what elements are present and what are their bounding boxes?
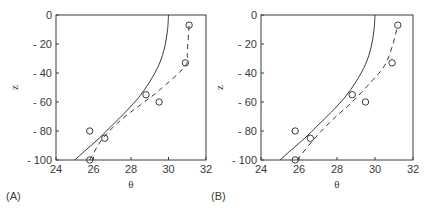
data-point-circle — [307, 135, 313, 141]
x-axis-label: θ — [128, 178, 133, 190]
solid-curve — [280, 15, 375, 160]
data-point-circle — [292, 128, 298, 134]
x-tick-label: 28 — [331, 163, 343, 175]
figure: 24262830320- 20- 40- 60- 80- 100θz(A) 24… — [0, 0, 433, 210]
y-tick-label: 0 — [46, 9, 52, 21]
y-axis-label: z — [8, 85, 20, 90]
dashed-curve — [90, 25, 189, 160]
y-tick-label: - 60 — [238, 96, 257, 108]
data-point-circle — [156, 99, 162, 105]
panel-b: 24262830320- 20- 40- 60- 80- 100θz(B) — [211, 9, 419, 202]
y-tick-label: - 100 — [232, 154, 257, 166]
data-point-circle — [87, 128, 93, 134]
y-tick-label: - 80 — [33, 125, 52, 137]
y-tick-label: - 40 — [33, 67, 52, 79]
x-axis-label: θ — [334, 178, 339, 190]
y-axis-label: z — [213, 85, 225, 90]
y-tick-label: - 80 — [238, 125, 257, 137]
y-tick-label: - 40 — [238, 67, 257, 79]
x-tick-label: 26 — [87, 163, 99, 175]
y-tick-label: - 20 — [238, 38, 257, 50]
x-tick-label: 32 — [200, 163, 212, 175]
data-point-circle — [389, 60, 395, 66]
y-tick-label: - 60 — [33, 96, 52, 108]
plot-frame — [261, 15, 413, 160]
dashed-curve — [297, 25, 398, 160]
x-tick-label: 30 — [369, 163, 381, 175]
plot-frame — [56, 15, 206, 160]
x-tick-label: 28 — [125, 163, 137, 175]
solid-curve — [75, 15, 169, 160]
y-tick-label: - 100 — [27, 154, 52, 166]
y-tick-label: 0 — [251, 9, 257, 21]
x-tick-label: 30 — [162, 163, 174, 175]
data-point-circle — [143, 92, 149, 98]
y-tick-label: - 20 — [33, 38, 52, 50]
data-point-circle — [349, 92, 355, 98]
panel-a: 24262830320- 20- 40- 60- 80- 100θz(A) — [6, 9, 212, 202]
x-tick-label: 26 — [293, 163, 305, 175]
panel-label: (A) — [6, 190, 21, 202]
panel-label: (B) — [211, 190, 226, 202]
data-point-circle — [362, 99, 368, 105]
x-tick-label: 32 — [407, 163, 419, 175]
data-point-circle — [395, 22, 401, 28]
